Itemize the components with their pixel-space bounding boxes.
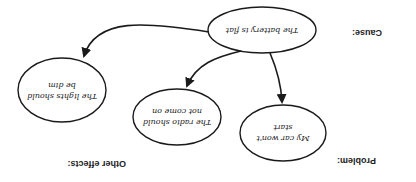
- problem-node-line2: start: [245, 122, 321, 133]
- effect-lights-node-text: The lights should be dim: [22, 80, 102, 102]
- effect-radio-node-line2: not come on: [137, 106, 217, 117]
- effect-radio-node-text: The radio should not come on: [137, 106, 217, 128]
- arrow-cause-to-problem: [270, 53, 282, 102]
- problem-node-line1: My car won't: [245, 133, 321, 144]
- effect-radio-node-line1: The radio should: [137, 117, 217, 128]
- cause-label: Cause:: [352, 28, 382, 38]
- problem-node-text: My car won't start: [245, 122, 321, 144]
- other-effects-label: Other effects:: [67, 159, 126, 169]
- arrow-cause-to-lights: [84, 25, 209, 56]
- cause-effect-diagram: Cause: Problem: Other effects: The batte…: [0, 0, 416, 182]
- problem-label: Problem:: [337, 156, 376, 166]
- arrow-cause-to-radio: [187, 51, 241, 86]
- cause-node-line1: The battery is flat: [212, 25, 312, 36]
- cause-node-text: The battery is flat: [212, 25, 312, 36]
- effect-lights-node-line2: be dim: [22, 80, 102, 91]
- effect-lights-node-line1: The lights should: [22, 91, 102, 102]
